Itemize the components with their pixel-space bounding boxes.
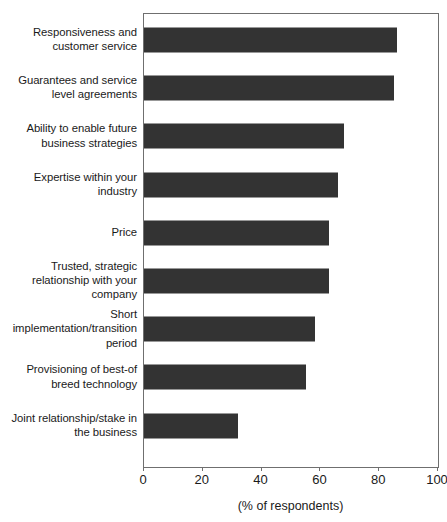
x-tick-mark xyxy=(143,467,144,471)
x-axis-title: (% of respondents) xyxy=(143,499,438,514)
x-tick-label: 60 xyxy=(312,472,326,487)
x-tick-label: 100 xyxy=(426,472,447,487)
x-tick-mark xyxy=(261,467,262,471)
category-label: Short implementation/transition period xyxy=(0,307,137,350)
bar xyxy=(144,124,344,149)
bar xyxy=(144,172,338,197)
category-label: Ability to enable future business strate… xyxy=(0,121,137,149)
x-tick-mark xyxy=(437,467,438,471)
category-label: Joint relationship/stake in the business xyxy=(0,410,137,438)
category-axis-labels: Responsiveness and customer serviceGuara… xyxy=(0,13,137,466)
category-label: Expertise within your industry xyxy=(0,169,137,197)
category-label: Guarantees and service level agreements xyxy=(0,73,137,101)
category-label: Provisioning of best-of breed technology xyxy=(0,362,137,390)
x-tick-mark xyxy=(319,467,320,471)
plot-area xyxy=(143,13,439,468)
bar xyxy=(144,28,397,53)
bar xyxy=(144,317,315,342)
x-tick-label: 0 xyxy=(139,472,146,487)
x-tick-label: 20 xyxy=(195,472,209,487)
x-tick-mark xyxy=(378,467,379,471)
x-axis: 020406080100 xyxy=(143,467,438,489)
category-label: Responsiveness and customer service xyxy=(0,25,137,53)
bar xyxy=(144,220,329,245)
bar xyxy=(144,76,394,101)
x-tick-label: 80 xyxy=(371,472,385,487)
bar xyxy=(144,365,306,390)
x-tick-label: 40 xyxy=(253,472,267,487)
category-label: Price xyxy=(0,225,137,239)
x-tick-mark xyxy=(202,467,203,471)
bar-chart: Responsiveness and customer serviceGuara… xyxy=(0,0,447,522)
bar xyxy=(144,413,238,438)
bar xyxy=(144,269,329,294)
category-label: Trusted, strategic relationship with you… xyxy=(0,259,137,302)
